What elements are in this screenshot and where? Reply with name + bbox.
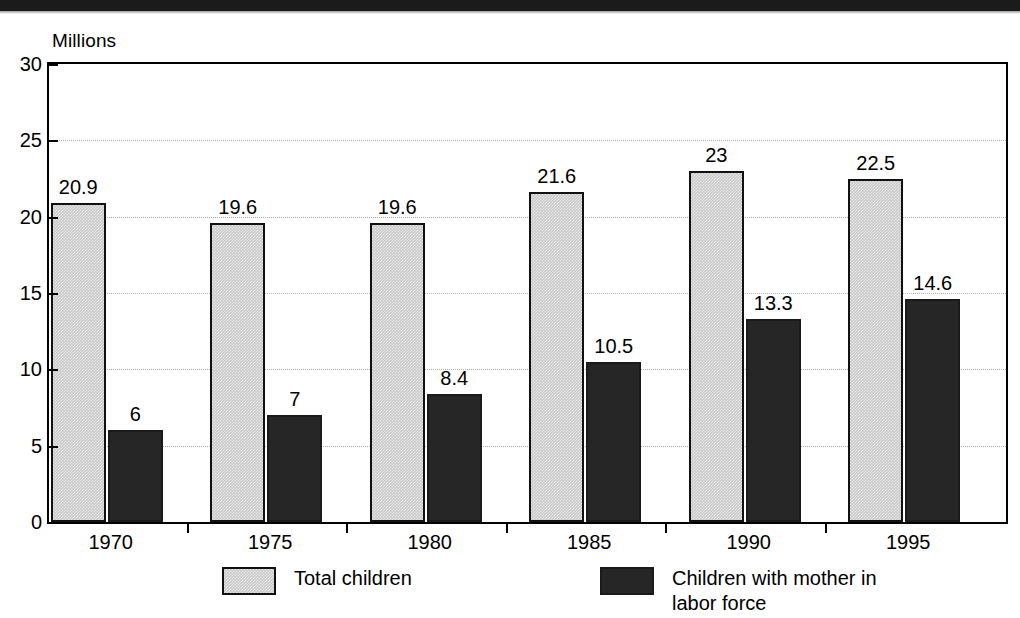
- bar-chart-figure: Millions 051015202530 20.9619.6719.68.42…: [0, 0, 1020, 618]
- x-axis-category-separator: [187, 524, 189, 533]
- plot-area: [49, 64, 1006, 522]
- y-axis-tick-mark: [47, 64, 58, 66]
- bar-value-label: 23: [705, 145, 727, 165]
- bar-value-label: 19.6: [218, 197, 257, 217]
- legend-label: Total children: [294, 566, 412, 591]
- x-axis-tick-label-1995: 1995: [886, 532, 931, 552]
- bar-1990-series1: [689, 171, 744, 522]
- x-axis-tick-label-1970: 1970: [89, 532, 134, 552]
- x-axis-category-separator: [506, 524, 508, 533]
- bar-1985-series2: [586, 362, 641, 522]
- bar-value-label: 20.9: [59, 177, 98, 197]
- y-axis-tick-labels: 051015202530: [0, 62, 42, 524]
- x-axis-tick-label-1990: 1990: [727, 532, 772, 552]
- y-axis-tick-label: 30: [2, 54, 42, 74]
- y-axis-tick-mark: [47, 293, 58, 295]
- x-axis-tick-label-1980: 1980: [408, 532, 453, 552]
- bar-value-label: 14.6: [913, 273, 952, 293]
- x-axis-tick-label-1975: 1975: [248, 532, 293, 552]
- legend-swatch-total: [222, 567, 276, 595]
- bar-1985-series1: [529, 192, 584, 522]
- y-axis-tick-label: 0: [2, 512, 42, 532]
- y-axis-tick-mark: [47, 217, 58, 219]
- legend-label: Children with mother inlabor force: [672, 566, 877, 616]
- bar-1980-series2: [427, 394, 482, 522]
- x-axis-category-separator: [346, 524, 348, 533]
- x-axis-category-separator: [665, 524, 667, 533]
- bar-value-label: 6: [130, 404, 141, 424]
- y-axis-tick-mark: [47, 369, 58, 371]
- bar-value-label: 19.6: [378, 197, 417, 217]
- bar-1980-series1: [370, 223, 425, 522]
- y-axis-tick-label: 10: [2, 359, 42, 379]
- y-axis-tick-label: 15: [2, 283, 42, 303]
- bar-1975-series2: [267, 415, 322, 522]
- bar-1975-series1: [210, 223, 265, 522]
- bar-value-label: 7: [289, 389, 300, 409]
- legend-swatch-working: [600, 567, 654, 595]
- y-axis-tick-mark: [47, 522, 58, 524]
- bar-1995-series2: [905, 299, 960, 522]
- bar-1970-series1: [51, 203, 106, 522]
- y-axis-unit-label: Millions: [52, 30, 116, 52]
- bar-value-label: 13.3: [754, 293, 793, 313]
- gridline: [49, 140, 1006, 141]
- y-axis-tick-mark: [47, 446, 58, 448]
- y-axis-tick-label: 20: [2, 207, 42, 227]
- bar-value-label: 21.6: [537, 166, 576, 186]
- y-axis-tick-mark: [47, 140, 58, 142]
- bar-value-label: 22.5: [856, 153, 895, 173]
- y-axis-tick-label: 25: [2, 130, 42, 150]
- x-axis-category-separator: [825, 524, 827, 533]
- bar-value-label: 8.4: [440, 368, 468, 388]
- x-axis-tick-label-1985: 1985: [567, 532, 612, 552]
- bar-1970-series2: [108, 430, 163, 522]
- bar-value-label: 10.5: [594, 336, 633, 356]
- chart-legend: Total childrenChildren with mother inlab…: [0, 566, 1020, 618]
- legend-entry-1[interactable]: Total children: [222, 566, 412, 595]
- bar-1995-series1: [848, 179, 903, 523]
- bar-1990-series2: [746, 319, 801, 522]
- legend-entry-2[interactable]: Children with mother inlabor force: [600, 566, 877, 616]
- y-axis-tick-label: 5: [2, 436, 42, 456]
